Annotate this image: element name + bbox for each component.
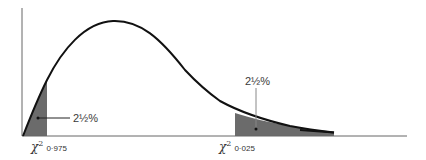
- right-tick-subscript: 0·025: [234, 144, 254, 153]
- right-area-label: 2½%: [245, 76, 270, 87]
- chi-power: 2: [38, 139, 43, 148]
- right-tick-label: χ20·025: [219, 140, 255, 153]
- left-area-label: 2½%: [73, 113, 98, 124]
- density-curve: [23, 21, 334, 136]
- chi-square-chart: [0, 0, 426, 160]
- left-area-leader-dot: [37, 117, 40, 120]
- left-tick-label: χ20·975: [31, 140, 67, 153]
- left-tick-subscript: 0·975: [46, 144, 66, 153]
- chi-power: 2: [226, 139, 231, 148]
- right-area-leader-dot: [255, 128, 258, 131]
